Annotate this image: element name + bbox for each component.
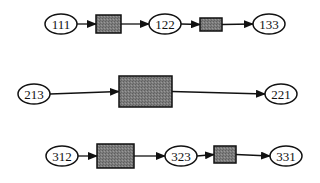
arrow-edge	[197, 155, 214, 157]
arrow-edge	[172, 92, 265, 95]
node-label: 323	[171, 149, 191, 164]
process-box	[97, 144, 134, 168]
nodes-layer: 111122133213221312323331	[18, 14, 302, 168]
process-box	[119, 76, 172, 107]
node-label: 133	[259, 17, 279, 32]
node-label: 213	[24, 87, 44, 102]
state-node-111: 111	[45, 14, 77, 34]
arrow-edge	[50, 92, 119, 95]
state-node-312: 312	[46, 146, 78, 166]
arrow-edge	[181, 24, 200, 25]
state-node-122: 122	[149, 14, 181, 34]
arrow-edge	[236, 155, 270, 157]
process-box	[96, 15, 121, 33]
state-node-221: 221	[265, 84, 297, 104]
node-label: 111	[52, 17, 71, 32]
node-label: 122	[155, 17, 175, 32]
node-label: 312	[52, 149, 72, 164]
state-node-133: 133	[253, 14, 285, 34]
node-label: 221	[271, 87, 291, 102]
state-node-331: 331	[270, 146, 302, 166]
process-box	[214, 146, 236, 163]
state-node-213: 213	[18, 84, 50, 104]
process-box	[200, 18, 222, 31]
flow-diagram: 111122133213221312323331	[0, 0, 320, 183]
arrow-edge	[222, 24, 253, 25]
state-node-323: 323	[165, 146, 197, 166]
node-label: 331	[276, 149, 296, 164]
